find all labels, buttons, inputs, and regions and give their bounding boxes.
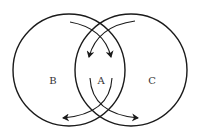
label-b: B bbox=[49, 75, 56, 86]
label-a: A bbox=[96, 75, 105, 86]
venn-diagram: B A C bbox=[0, 0, 201, 139]
label-c: C bbox=[148, 75, 156, 86]
arrow-center-to-bottom-left bbox=[63, 78, 112, 118]
circle-c bbox=[75, 14, 187, 126]
